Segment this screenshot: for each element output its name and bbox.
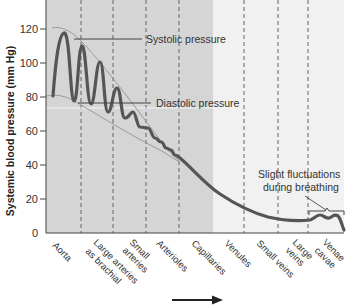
label-capillaries: Capillaries (190, 238, 229, 277)
y-tick-0: 0 (32, 227, 38, 239)
y-ticks (40, 29, 46, 199)
y-axis-title: Systemic blood pressure (mm Hg) (4, 46, 16, 216)
y-tick-20: 20 (26, 193, 38, 205)
systolic-label: Systolic pressure (146, 33, 226, 45)
label-venules: Venules (223, 238, 255, 270)
label-arterioles: Arterioles (155, 238, 191, 274)
category-labels: Aorta Large arteries as brachial Small a… (51, 237, 348, 286)
y-tick-40: 40 (26, 159, 38, 171)
venous-region-bg (213, 0, 344, 233)
label-aorta: Aorta (51, 240, 75, 264)
breathing-label-line2: during breathing (263, 181, 339, 193)
y-tick-100: 100 (20, 57, 38, 69)
breathing-label-line1: Slight fluctuations (258, 168, 340, 180)
y-tick-80: 80 (26, 91, 38, 103)
y-tick-60: 60 (26, 125, 38, 137)
flow-direction-arrow-icon (172, 296, 223, 305)
blood-pressure-chart: 120 100 80 60 40 20 0 Systemic blood pre… (0, 0, 348, 306)
y-tick-labels: 120 100 80 60 40 20 0 (20, 23, 38, 239)
diastolic-label: Diastolic pressure (156, 97, 240, 109)
y-tick-120: 120 (20, 23, 38, 35)
